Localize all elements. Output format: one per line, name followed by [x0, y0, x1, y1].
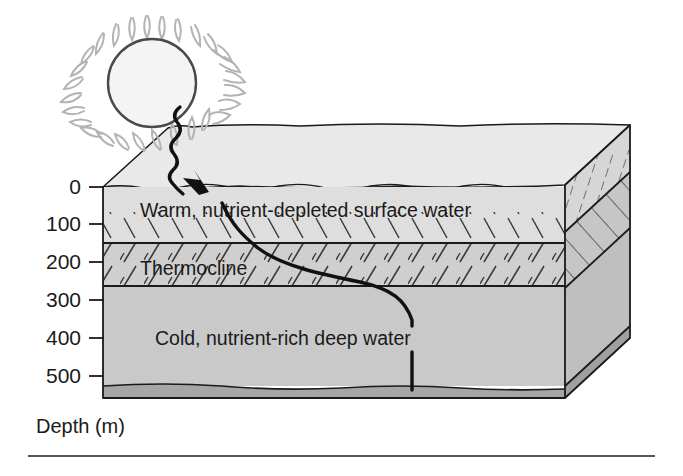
front-face-seafloor [103, 384, 565, 398]
depth-tick-label-100: 100 [46, 212, 81, 235]
depth-axis-title: Depth (m) [36, 415, 125, 437]
ocean-thermal-structure-diagram: 0 100 200 300 400 500 Depth (m) Warm, nu… [0, 0, 683, 476]
depth-tick-label-500: 500 [46, 364, 81, 387]
surface-layer-label: Warm, nutrient-depleted surface water [140, 199, 471, 221]
depth-tick-label-0: 0 [69, 175, 81, 198]
block-top-face [103, 124, 630, 189]
thermocline-layer-label: Thermocline [140, 257, 247, 279]
sun-disc [108, 39, 196, 127]
deep-layer-label: Cold, nutrient-rich deep water [155, 327, 411, 349]
depth-tick-label-200: 200 [46, 250, 81, 273]
depth-tick-marks [89, 187, 104, 376]
depth-tick-label-300: 300 [46, 288, 81, 311]
depth-tick-label-400: 400 [46, 326, 81, 349]
